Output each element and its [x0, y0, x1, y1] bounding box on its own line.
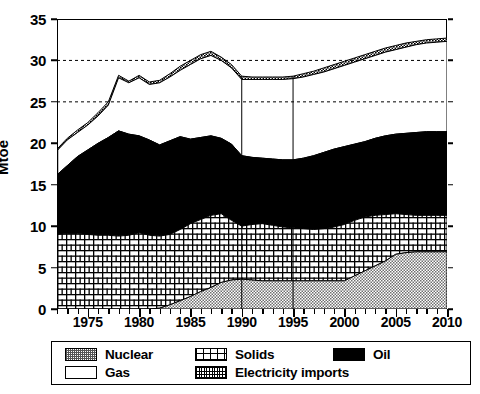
legend-label-oil: Oil	[373, 347, 390, 362]
x-tick-label: 1995	[278, 314, 308, 330]
y-tick-label: 35	[30, 12, 46, 27]
plot-area	[57, 19, 447, 309]
y-tick-mark	[51, 18, 57, 20]
y-tick-mark	[51, 184, 57, 186]
x-tick-mark	[67, 309, 68, 314]
x-tick-mark	[375, 309, 376, 314]
legend-swatch-solids-icon	[195, 348, 227, 361]
stacked-area-svg	[57, 19, 447, 309]
y-tick-mark-right	[448, 60, 453, 62]
x-tick-label: 2010	[432, 314, 462, 330]
x-tick-label: 1980	[124, 314, 154, 330]
x-tick-mark	[365, 309, 366, 314]
x-tick-mark	[211, 309, 212, 314]
legend-item-oil: Oil	[333, 347, 390, 362]
y-tick-mark	[51, 60, 57, 62]
x-tick-mark	[119, 309, 120, 314]
y-tick-mark-right	[448, 184, 453, 186]
y-tick-label: 25	[30, 94, 46, 109]
y-tick-label: 20	[30, 136, 46, 151]
x-tick-mark	[324, 309, 325, 314]
plot-canvas	[57, 19, 447, 309]
y-tick-label: 0	[38, 302, 46, 317]
x-tick-mark	[108, 309, 109, 314]
x-tick-mark	[426, 309, 427, 314]
legend-label-gas: Gas	[105, 365, 130, 380]
y-tick-mark	[51, 267, 57, 269]
x-tick-mark	[416, 309, 417, 314]
y-tick-label: 15	[30, 177, 46, 192]
legend-swatch-electricity-imports-icon	[195, 366, 227, 379]
x-tick-mark	[57, 309, 58, 314]
y-tick-mark-right	[448, 101, 453, 103]
legend-label-electricity-imports: Electricity imports	[235, 365, 349, 380]
y-tick-mark	[51, 101, 57, 103]
legend-item-electricity-imports: Electricity imports	[195, 365, 349, 380]
y-tick-label: 5	[38, 260, 46, 275]
x-tick-label: 1990	[227, 314, 257, 330]
legend-item-solids: Solids	[195, 347, 274, 362]
y-tick-label: 10	[30, 219, 46, 234]
legend-swatch-gas-icon	[65, 366, 97, 379]
legend-swatch-nuclear-icon	[65, 348, 97, 361]
x-tick-label: 2005	[381, 314, 411, 330]
y-tick-label: 30	[30, 53, 46, 68]
y-tick-mark-right	[448, 225, 453, 227]
y-tick-mark-right	[448, 18, 453, 20]
x-tick-mark	[170, 309, 171, 314]
x-tick-mark	[160, 309, 161, 314]
legend-item-gas: Gas	[65, 365, 130, 380]
y-tick-mark	[51, 143, 57, 145]
x-tick-label: 1975	[73, 314, 103, 330]
chart-figure: Mtoe 05101520253035	[0, 0, 480, 394]
x-tick-label: 2000	[329, 314, 359, 330]
x-tick-mark	[221, 309, 222, 314]
legend-swatch-oil-icon	[333, 348, 365, 361]
x-tick-mark	[314, 309, 315, 314]
legend-label-solids: Solids	[235, 347, 274, 362]
legend-label-nuclear: Nuclear	[105, 347, 153, 362]
legend-item-nuclear: Nuclear	[65, 347, 153, 362]
y-tick-mark-right	[448, 308, 453, 310]
y-tick-mark-right	[448, 267, 453, 269]
y-axis-labels: 05101520253035	[0, 0, 57, 394]
chart-legend: Nuclear Gas Solids Electricity imports O…	[51, 341, 471, 385]
x-tick-label: 1985	[175, 314, 205, 330]
x-tick-mark	[262, 309, 263, 314]
y-tick-mark	[51, 225, 57, 227]
y-tick-mark-right	[448, 143, 453, 145]
x-tick-mark	[273, 309, 274, 314]
